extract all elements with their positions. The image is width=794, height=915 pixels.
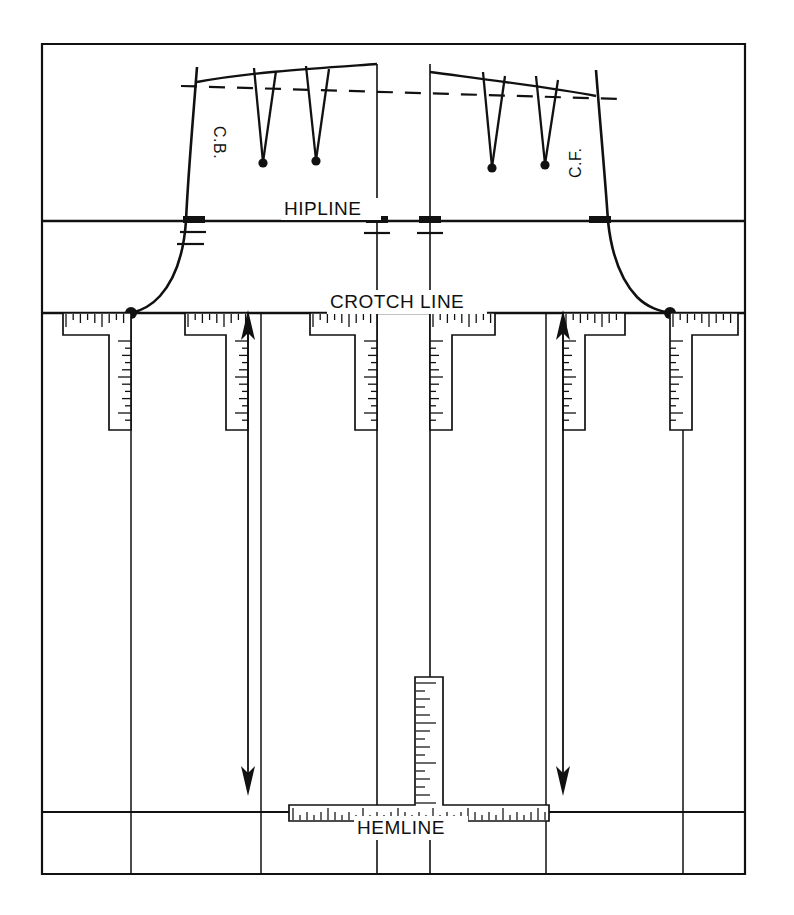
tape-crotch-3 — [310, 313, 377, 430]
back-waist-curve — [197, 64, 377, 82]
back-dart-1-leg-left — [254, 68, 263, 162]
pattern-diagram-stage: HIPLINE CROTCH LINE HEMLINE C.B. C.F. — [0, 0, 794, 915]
front-dart-1-apex-dot — [487, 163, 496, 172]
back-dart-1-leg-right — [263, 71, 276, 162]
text-labels: HIPLINE CROTCH LINE HEMLINE C.B. C.F. — [211, 126, 584, 840]
front-dart-2-apex-dot — [540, 160, 549, 169]
tape-crotch-6 — [670, 313, 738, 430]
front-piece-outline — [430, 70, 670, 313]
back-piece-outline — [131, 64, 377, 313]
frame-rectangle — [42, 44, 745, 874]
hip-notch-front-side — [589, 216, 611, 223]
tape-crotch-5 — [563, 313, 625, 430]
tape-crotch-4 — [430, 313, 495, 430]
front-dart-2-leg-right — [545, 80, 558, 164]
front-dart-1-leg-right — [492, 76, 505, 167]
back-dart-1 — [254, 68, 276, 168]
tape-hem — [289, 677, 549, 821]
front-side-seam-curve — [596, 70, 670, 313]
tape-measures-crotch-band — [63, 313, 738, 430]
outer-frame — [42, 44, 745, 874]
tape-measure-hemline — [289, 677, 549, 821]
tape-crotch-1 — [63, 313, 131, 430]
back-dart-2-apex-dot — [311, 156, 320, 165]
hipline-label: HIPLINE — [284, 198, 361, 219]
vertical-seam-lines — [131, 64, 683, 874]
tape-crotch-2 — [185, 313, 248, 430]
back-dart-2-leg-right — [316, 69, 329, 160]
back-dart-1-apex-dot — [258, 158, 267, 167]
back-dart-2 — [306, 66, 329, 166]
pattern-diagram-svg: HIPLINE CROTCH LINE HEMLINE C.B. C.F. — [0, 0, 794, 915]
hemline-label: HEMLINE — [357, 817, 445, 838]
front-dart-2-leg-left — [536, 76, 545, 164]
back-dart-2-leg-left — [306, 66, 316, 160]
grainline-arrows — [241, 310, 570, 796]
back-side-seam-curve — [131, 67, 197, 313]
front-waist-curve — [430, 72, 596, 96]
front-dart-1 — [483, 72, 505, 173]
front-dart-1-leg-left — [483, 72, 492, 167]
center-back-label: C.B. — [211, 126, 228, 159]
center-front-label: C.F. — [567, 148, 584, 178]
crotch-line-label: CROTCH LINE — [330, 291, 464, 312]
